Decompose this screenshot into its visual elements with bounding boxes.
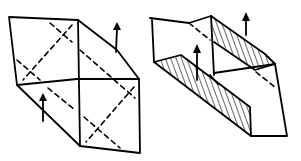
- figure-2-middle-horizontal: [214, 64, 275, 73]
- figure-2-crease-upper: [189, 23, 210, 40]
- origami-diagram: [0, 0, 301, 161]
- figure-step-2: [150, 12, 287, 136]
- figure-2-left-edge: [152, 20, 154, 62]
- figure-1-crease-d: [80, 50, 135, 98]
- figure-1-crease-c: [17, 60, 40, 80]
- figure-1-middle-horizontal: [17, 79, 139, 85]
- figure-1-crease-b: [50, 23, 72, 42]
- figure-2-top-edge: [150, 16, 211, 23]
- figure-1-crease-e: [48, 88, 75, 110]
- figure-2-right-edge: [251, 64, 287, 136]
- figure-step-1: [9, 17, 140, 153]
- figure-2-crease-lower: [256, 72, 276, 88]
- figure-1-middle-vertical: [78, 20, 80, 146]
- arrow-up-icon: [242, 12, 250, 35]
- figure-1-crease-g: [84, 117, 120, 148]
- figure-1-crease-f: [86, 87, 134, 142]
